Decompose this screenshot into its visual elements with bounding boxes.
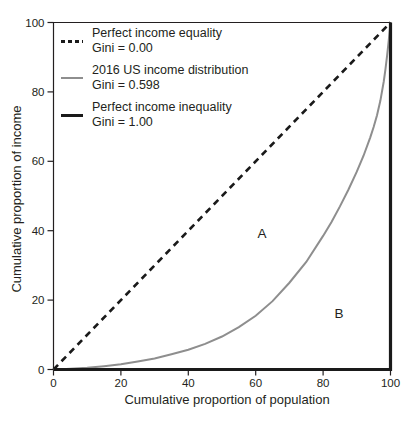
lorenz-curve-figure: 020406080100 020406080100 Perfect income…: [0, 0, 418, 422]
x-tick-label: 60: [249, 377, 262, 389]
legend-gini-equality: Gini = 0.00: [92, 41, 222, 56]
y-tick-label: 80: [32, 86, 45, 98]
legend-item-us-distribution: 2016 US income distribution Gini = 0.598: [61, 63, 248, 93]
y-axis-label: Cumulative proportion of income: [9, 105, 24, 292]
x-axis-ticks: 020406080100: [50, 370, 400, 390]
legend-label-inequality: Perfect income inequality: [92, 100, 232, 115]
gray-line-swatch-icon: [61, 77, 83, 79]
annotation-area-B: B: [334, 306, 343, 321]
legend: Perfect income equality Gini = 0.00 2016…: [61, 26, 248, 137]
legend-label-us-distribution: 2016 US income distribution: [92, 63, 248, 78]
black-line-swatch-icon: [61, 114, 83, 117]
x-axis-label: Cumulative proportion of population: [124, 392, 329, 407]
legend-gini-us-distribution: Gini = 0.598: [92, 78, 248, 93]
y-tick-label: 100: [25, 17, 44, 29]
x-tick-label: 40: [182, 377, 195, 389]
legend-gini-inequality: Gini = 1.00: [92, 115, 232, 130]
y-tick-label: 20: [32, 294, 45, 306]
y-tick-label: 60: [32, 155, 45, 167]
y-axis-ticks: 020406080100: [25, 17, 53, 376]
legend-item-perfect-inequality: Perfect income inequality Gini = 1.00: [61, 100, 248, 130]
x-tick-label: 80: [317, 377, 330, 389]
y-tick-label: 40: [32, 225, 45, 237]
x-tick-label: 20: [115, 377, 128, 389]
dashed-line-swatch-icon: [61, 40, 83, 43]
legend-item-perfect-equality: Perfect income equality Gini = 0.00: [61, 26, 248, 56]
legend-label-equality: Perfect income equality: [92, 26, 222, 41]
annotation-area-A: A: [257, 226, 266, 241]
x-tick-label: 100: [381, 377, 400, 389]
x-tick-label: 0: [50, 377, 56, 389]
y-tick-label: 0: [38, 364, 44, 376]
